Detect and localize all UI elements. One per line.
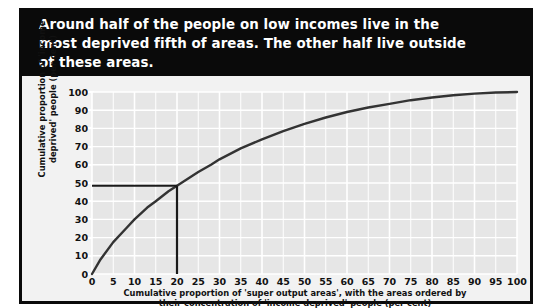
y-axis-tick-label: 40 (62, 197, 88, 206)
x-axis-tick-label: 100 (505, 277, 529, 287)
y-axis-tick-labels: 0102030405060708090100 (58, 92, 88, 274)
y-axis-tick-label: 100 (62, 88, 88, 97)
y-axis-tick-label: 20 (62, 233, 88, 242)
x-axis-title: Cumulative proportion of 'super output a… (60, 288, 530, 308)
plot-area (92, 92, 517, 274)
y-axis-tick-label: 30 (62, 215, 88, 224)
y-axis-tick-label: 10 (62, 251, 88, 260)
lorenz-curve (92, 92, 517, 274)
title-banner: Around half of the people on low incomes… (19, 8, 533, 76)
y-axis-tick-label: 60 (62, 160, 88, 169)
data-curve-layer (92, 92, 517, 274)
y-axis-tick-label: 80 (62, 124, 88, 133)
chart-title: Around half of the people on low incomes… (39, 15, 519, 72)
y-axis-title: Cumulative proportion of 'income deprive… (37, 4, 59, 194)
y-axis-tick-label: 50 (62, 179, 88, 188)
y-axis-tick-label: 90 (62, 106, 88, 115)
y-axis-tick-label: 70 (62, 142, 88, 151)
